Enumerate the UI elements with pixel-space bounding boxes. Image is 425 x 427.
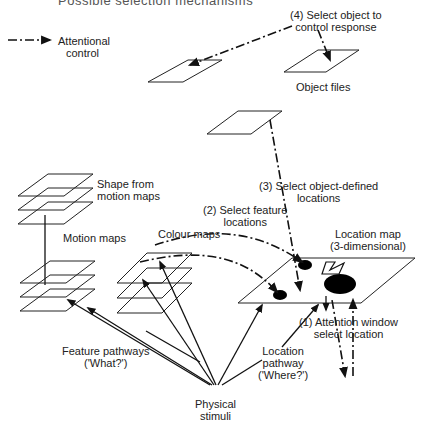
motion-maps-label: Motion maps: [63, 232, 126, 244]
motion-maps-stack: [20, 261, 95, 311]
step1-label: (1) Attention window select location: [299, 316, 398, 340]
feature-location-blob: [298, 260, 312, 270]
location-pathway-label: Location pathway ('Where?'): [258, 345, 308, 381]
select-feature-arrow-2: [140, 255, 277, 292]
attention-window-blob: [324, 274, 356, 294]
object-files-plane: [284, 50, 359, 72]
control-response-arrow: [318, 30, 330, 60]
figure-title-partial: Possible selection mechanisms: [58, 0, 253, 8]
step2-label: (2) Select feature locations: [203, 204, 287, 228]
colour-maps-stack: [117, 253, 192, 313]
legend-label: Attentional control: [58, 35, 110, 59]
feature-pathways-label: Feature pathways ('What?'): [62, 345, 149, 369]
object-files-label: Object files: [296, 81, 350, 93]
shape-from-motion-label: Shape from motion maps: [97, 178, 160, 202]
location-map-label: Location map (3-dimensional): [330, 228, 406, 252]
feature-location-blob: [273, 290, 287, 300]
object-location-shape: [322, 262, 344, 274]
attention-model-diagram: Possible selection mechanisms: [0, 0, 425, 427]
physical-stimuli-label: Physical stimuli: [195, 398, 236, 422]
location-pathway-leader: [222, 360, 262, 385]
response-plane: [148, 60, 222, 82]
feature-pathway-arrow: [143, 280, 214, 385]
select-object-arrow: [190, 26, 292, 65]
colour-maps-label: Colour maps: [158, 228, 220, 240]
step3-label: (3) Select object-defined locations: [259, 180, 378, 204]
shape-from-motion-stack: [18, 174, 93, 224]
feature-pathways-leader: [146, 331, 200, 362]
step4-label: (4) Select object to control response: [290, 9, 382, 33]
feature-pathway-arrow: [160, 262, 216, 385]
